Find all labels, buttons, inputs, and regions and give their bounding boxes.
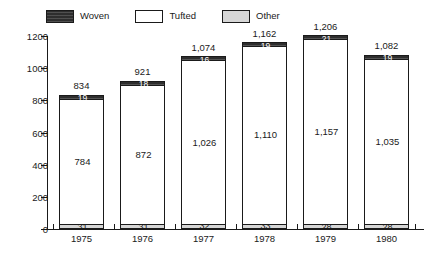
bar-segment-woven-label: 19 [60,94,105,103]
bar-stack[interactable]: 3178419 [59,95,104,229]
stacked-bar-chart: Woven Tufted Other 020040060080010001200… [0,0,428,255]
y-axis-tick: 400 [0,165,48,166]
bar-segment-other-label: 33 [243,222,288,231]
bar-stack[interactable]: 321,02616 [181,56,226,229]
bar-segment-tufted-label: 872 [121,150,166,160]
x-axis-tick-label: 1977 [181,234,226,244]
y-axis-tick: 0 [0,229,48,230]
bar-segment-tufted[interactable]: 1,026 [181,61,226,224]
bar-segment-woven-label: 19 [365,54,410,63]
bar-stack[interactable]: 281,15721 [303,35,348,229]
bar-segment-tufted-label: 1,157 [304,127,349,137]
bar-total-label: 1,162 [242,29,287,39]
bar-segment-tufted[interactable]: 1,035 [364,60,409,224]
bar-segment-tufted[interactable]: 1,157 [303,40,348,224]
bar-segment-other[interactable]: 32 [181,224,226,229]
y-axis-tick: 800 [0,100,48,101]
bar-segment-woven[interactable]: 18 [120,81,165,86]
bar-segment-woven[interactable]: 21 [303,35,348,40]
x-axis-separator [358,224,359,229]
bar-segment-woven[interactable]: 19 [364,55,409,60]
y-axis-tick: 1000 [0,68,48,69]
x-axis-tick-label: 1978 [242,234,287,244]
bar-segment-other[interactable]: 33 [242,224,287,229]
bar-total-label: 1,206 [303,22,348,32]
bar-segment-other[interactable]: 28 [364,224,409,229]
bar-segment-woven[interactable]: 19 [242,42,287,47]
x-axis-separator [297,224,298,229]
x-axis-tick-label: 1979 [303,234,348,244]
bar-segment-woven-label: 18 [121,80,166,89]
x-axis-tick-label: 1975 [59,234,104,244]
bar-total-label: 921 [120,67,165,77]
x-axis-separator [236,224,237,229]
bar-segment-tufted[interactable]: 872 [120,86,165,224]
bar-stack[interactable]: 331,11019 [242,42,287,229]
bar-segment-tufted[interactable]: 784 [59,100,104,224]
bar-segment-woven-label: 21 [304,35,349,44]
bar-segment-woven[interactable]: 16 [181,56,226,61]
bar-segment-tufted-label: 784 [60,157,105,167]
bar-segment-woven-label: 16 [182,56,227,65]
bar-segment-other[interactable]: 31 [120,224,165,229]
bar-segment-other[interactable]: 28 [303,224,348,229]
bar-segment-woven[interactable]: 19 [59,95,104,100]
bar-segment-tufted-label: 1,035 [365,137,410,147]
x-axis-separator [415,224,416,229]
x-axis-separator [175,224,176,229]
bar-stack[interactable]: 281,03519 [364,55,409,229]
bar-total-label: 1,074 [181,43,226,53]
bar-segment-tufted-label: 1,026 [182,138,227,148]
bar-total-label: 1,082 [364,41,409,51]
x-axis-separator [53,224,54,229]
bar-series-area: 3178419834197531872189211976321,026161,0… [47,0,424,255]
bar-segment-woven-label: 19 [243,42,288,51]
bar-stack[interactable]: 3187218 [120,81,165,229]
y-axis-tick: 1200 [0,36,48,37]
bar-segment-tufted[interactable]: 1,110 [242,47,287,224]
x-axis-separator [114,224,115,229]
bar-segment-tufted-label: 1,110 [243,130,288,140]
x-axis-tick-label: 1980 [364,234,409,244]
bar-total-label: 834 [59,81,104,91]
x-axis-tick-label: 1976 [120,234,165,244]
y-axis-tick: 600 [0,133,48,134]
y-axis-tick: 200 [0,197,48,198]
bar-segment-other[interactable]: 31 [59,224,104,229]
